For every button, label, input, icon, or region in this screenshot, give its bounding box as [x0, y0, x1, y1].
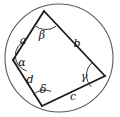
figure-svg: a b c d α β γ δ	[0, 0, 120, 117]
geometry-diagram: a b c d α β γ δ	[0, 0, 120, 117]
side-label-d: d	[26, 73, 33, 86]
angle-label-beta: β	[38, 29, 45, 42]
angle-label-gamma: γ	[81, 70, 88, 83]
angle-beta-arc	[35, 25, 57, 29]
angle-label-delta: δ	[40, 83, 47, 96]
side-label-b: b	[73, 37, 80, 50]
angle-label-alpha: α	[18, 56, 26, 69]
side-label-c: c	[70, 90, 76, 103]
side-label-a: a	[20, 34, 27, 47]
